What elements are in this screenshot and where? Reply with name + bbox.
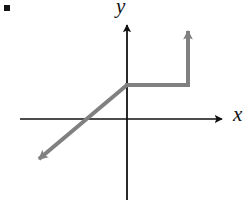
curve-constant-and-vertical (125, 31, 188, 85)
x-axis-label: x (233, 104, 242, 125)
curve-increasing-ray (39, 85, 127, 159)
graph-figure: y x (0, 0, 249, 200)
piecewise-curve-group (39, 31, 188, 159)
y-axis-label: y (116, 0, 125, 17)
axes-group (20, 25, 222, 200)
coordinate-plane-svg (0, 0, 249, 200)
